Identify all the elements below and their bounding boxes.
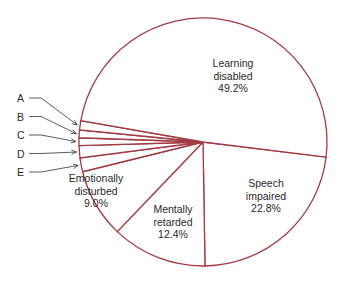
- side-labels: ABCDE: [17, 92, 78, 178]
- side-label-d: D: [17, 148, 25, 160]
- side-label-a: A: [17, 92, 24, 104]
- slice-label: Mentallyretarded12.4%: [153, 203, 193, 240]
- side-label-c: C: [17, 129, 25, 141]
- side-label-b: B: [17, 111, 24, 123]
- leader-line: [29, 165, 78, 172]
- side-label-e: E: [17, 166, 24, 178]
- leader-line: [29, 135, 76, 142]
- slice-label: Learningdisabled49.2%: [213, 57, 254, 94]
- leader-line: [29, 98, 77, 125]
- pie-slices: [79, 18, 327, 266]
- leader-line: [29, 152, 76, 154]
- pie-chart: Speechimpaired22.8%Mentallyretarded12.4%…: [0, 0, 352, 282]
- slice-label: Speechimpaired22.8%: [246, 177, 286, 214]
